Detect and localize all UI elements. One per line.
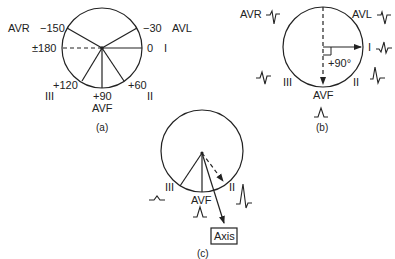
label-lead-i-b: I xyxy=(368,41,371,53)
waveform-lead-i-icon xyxy=(376,42,392,53)
label-lead-ii-c: II xyxy=(229,181,235,193)
label-plus60: +60 xyxy=(128,79,147,91)
waveform-lead-iii-icon xyxy=(256,72,271,84)
label-lead-iii-c: III xyxy=(165,181,174,193)
label-angle: +90° xyxy=(328,57,351,69)
axis-line-plus60 xyxy=(102,48,124,81)
caption-b: (b) xyxy=(316,122,328,133)
waveform-avl-icon xyxy=(377,12,391,24)
label-avf: AVF xyxy=(92,102,113,114)
center-dot xyxy=(100,46,104,50)
waveform-lead-ii-icon xyxy=(370,67,385,83)
waveform-lead-ii-c-icon xyxy=(236,184,252,208)
label-pm180: ±180 xyxy=(32,42,56,54)
label-plus120: +120 xyxy=(53,79,78,91)
axis-line-plus120 xyxy=(82,48,102,81)
label-avl: AVL xyxy=(172,22,192,34)
panel-c-axis: III AVF II Axis (c) xyxy=(149,110,252,259)
panel-b-perpendicular: AVR AVL I +90° III II AVF (b) xyxy=(240,7,392,133)
caption-c: (c) xyxy=(197,248,209,259)
waveform-avr-icon xyxy=(266,11,280,24)
panel-a-hexaxial: AVR −150 −30 AVL ±180 0 I +120 +60 III +… xyxy=(8,8,192,133)
label-avr-b: AVR xyxy=(240,8,262,20)
label-zero: 0 xyxy=(147,42,153,54)
axis-line-minus150 xyxy=(67,28,102,48)
waveform-avf-icon xyxy=(314,108,328,117)
label-lead-iii: III xyxy=(45,90,54,102)
waveform-avf-c-icon xyxy=(193,207,207,217)
label-avl-b: AVL xyxy=(352,8,372,20)
label-lead-ii: II xyxy=(147,90,153,102)
label-plus90: +90 xyxy=(93,90,112,102)
lead-iii-line xyxy=(180,153,202,186)
label-minus30: −30 xyxy=(143,22,162,34)
ecg-axis-diagram: AVR −150 −30 AVL ±180 0 I +120 +60 III +… xyxy=(0,0,395,259)
label-lead-i: I xyxy=(164,42,167,54)
label-lead-ii-b: II xyxy=(353,76,359,88)
caption-a: (a) xyxy=(96,122,108,133)
center-dot-c xyxy=(200,151,203,154)
waveform-lead-iii-c-icon xyxy=(149,196,165,200)
label-minus150: −150 xyxy=(40,22,65,34)
label-avf-c: AVF xyxy=(191,194,212,206)
lead-ii-dashed-arrow xyxy=(202,153,223,181)
label-avf-b: AVF xyxy=(313,89,334,101)
label-lead-iii-b: III xyxy=(283,76,292,88)
label-avr: AVR xyxy=(8,22,30,34)
right-angle-icon xyxy=(323,47,331,55)
label-axis: Axis xyxy=(214,230,235,242)
axis-line-minus30 xyxy=(102,28,137,48)
